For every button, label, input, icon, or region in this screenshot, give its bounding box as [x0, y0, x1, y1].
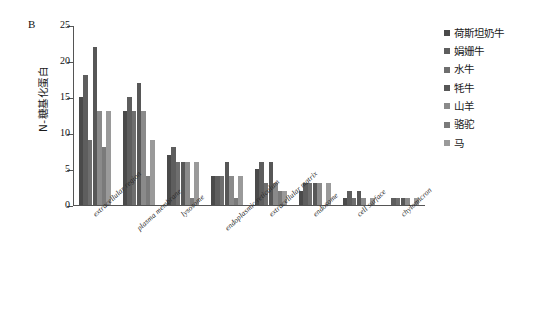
legend-swatch-icon — [444, 85, 450, 91]
y-tick-label: 0 — [65, 199, 70, 210]
legend-label: 牦牛 — [454, 83, 474, 94]
y-tick: 10 — [73, 134, 74, 135]
y-tick: 25 — [73, 26, 74, 27]
legend-label: 娟姗牛 — [454, 46, 484, 57]
bar-group — [387, 26, 419, 205]
legend-item: 荷斯坦奶牛 — [444, 24, 556, 42]
bar — [106, 111, 110, 205]
figure-panel-b: B N-糖基化蛋白 0510152025 extracellular regio… — [0, 0, 559, 310]
legend-swatch-icon — [444, 67, 450, 73]
legend-item: 娟姗牛 — [444, 42, 556, 60]
y-tick-label: 20 — [60, 55, 70, 66]
legend-label: 山羊 — [454, 101, 474, 112]
y-axis-title: N-糖基化蛋白 — [35, 40, 50, 160]
legend-swatch-icon — [444, 122, 450, 128]
y-tick: 20 — [73, 62, 74, 63]
legend-item: 骆驼 — [444, 115, 556, 133]
legend: 荷斯坦奶牛娟姗牛水牛牦牛山羊骆驼马 — [444, 24, 556, 152]
y-axis-line — [73, 26, 74, 206]
legend-item: 牦牛 — [444, 79, 556, 97]
legend-swatch-icon — [444, 140, 450, 146]
legend-label: 马 — [454, 138, 464, 149]
y-tick-label: 5 — [65, 163, 70, 174]
y-tick-label: 15 — [60, 91, 70, 102]
legend-swatch-icon — [444, 48, 450, 54]
legend-swatch-icon — [444, 30, 450, 36]
y-tick-label: 10 — [60, 127, 70, 138]
bar-group — [255, 26, 287, 205]
y-tick: 5 — [73, 170, 74, 171]
bar-group — [79, 26, 111, 205]
panel-letter: B — [28, 18, 36, 30]
bar-group — [167, 26, 199, 205]
y-tick: 15 — [73, 98, 74, 99]
bar-group — [343, 26, 375, 205]
legend-label: 骆驼 — [454, 119, 474, 130]
y-tick-label: 25 — [60, 19, 70, 30]
bar-group — [211, 26, 243, 205]
y-tick: 0 — [73, 206, 74, 207]
legend-item: 山羊 — [444, 97, 556, 115]
bar — [150, 140, 154, 205]
legend-label: 水牛 — [454, 64, 474, 75]
bar — [238, 176, 242, 205]
legend-item: 马 — [444, 134, 556, 152]
legend-swatch-icon — [444, 103, 450, 109]
legend-label: 荷斯坦奶牛 — [454, 28, 504, 39]
legend-item: 水牛 — [444, 61, 556, 79]
